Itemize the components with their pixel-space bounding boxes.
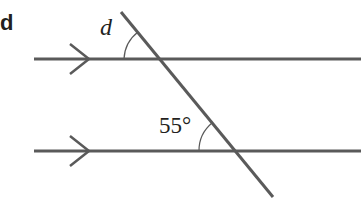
angle-label-55: 55° xyxy=(159,113,191,139)
parallel-lines-diagram xyxy=(0,0,361,204)
angle-arc-d xyxy=(124,32,138,59)
transversal-line xyxy=(121,12,273,197)
angle-arc-55 xyxy=(199,123,212,151)
angle-label-d: d xyxy=(100,14,112,41)
